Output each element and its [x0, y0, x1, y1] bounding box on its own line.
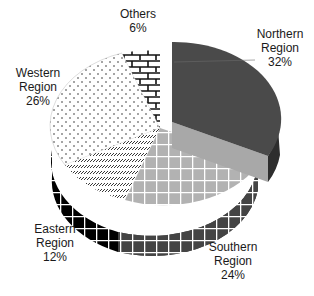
- label-southern-name2: Region: [202, 254, 264, 268]
- label-others-name: Others: [112, 7, 164, 21]
- label-northern: Northern Region 32%: [250, 27, 310, 69]
- label-eastern-pct: 12%: [27, 250, 83, 264]
- label-western-name: Western: [10, 66, 66, 80]
- label-others: Others 6%: [112, 7, 164, 35]
- label-southern-pct: 24%: [202, 268, 264, 282]
- label-eastern-name: Eastern: [27, 222, 83, 236]
- label-northern-name: Northern: [250, 27, 310, 41]
- label-southern-name: Southern: [202, 240, 264, 254]
- label-western-pct: 26%: [10, 94, 66, 108]
- label-eastern: Eastern Region 12%: [27, 222, 83, 264]
- label-northern-pct: 32%: [250, 55, 310, 69]
- label-others-pct: 6%: [112, 21, 164, 35]
- label-northern-name2: Region: [250, 41, 310, 55]
- label-western: Western Region 26%: [10, 66, 66, 108]
- label-western-name2: Region: [10, 80, 66, 94]
- label-eastern-name2: Region: [27, 236, 83, 250]
- label-southern: Southern Region 24%: [202, 240, 264, 282]
